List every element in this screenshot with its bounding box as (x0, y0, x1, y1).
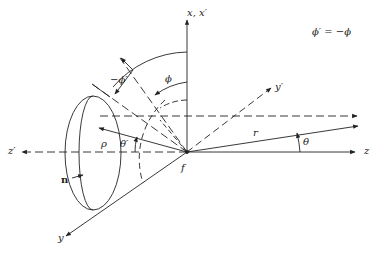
phi-label: ϕ (165, 74, 172, 84)
y-prime-label: y′ (275, 82, 283, 92)
f-label: f (181, 163, 185, 173)
r-label: r (253, 128, 258, 138)
lens-inner (79, 96, 93, 210)
lens-outer (65, 96, 121, 210)
theta-prime-label: θ′ (120, 139, 128, 149)
cone-arc (139, 100, 165, 183)
theta-label: θ (303, 137, 309, 147)
coordinate-diagram (0, 0, 380, 253)
phi-direction-line (120, 58, 187, 152)
x-axis-label: x, x′ (187, 8, 207, 18)
y-axis-label: y (58, 233, 64, 243)
rho-vector (99, 128, 187, 152)
r-vector (187, 126, 358, 152)
tangent-line (92, 84, 110, 97)
theta-prime-arc (135, 137, 137, 152)
y-axis (66, 152, 187, 236)
y-prime-axis (187, 88, 271, 152)
theta-arc (297, 133, 300, 152)
z-axis-label: z (364, 146, 369, 156)
n-label: n (61, 175, 68, 185)
rho-label: ρ (101, 139, 107, 149)
z-prime-label: z′ (8, 146, 16, 156)
neg-phi-prime-label: −ϕ′ (110, 75, 127, 85)
n-arrow (72, 175, 83, 178)
relation-label: ϕ′ = −ϕ (312, 27, 351, 37)
origin-dot (186, 151, 189, 154)
